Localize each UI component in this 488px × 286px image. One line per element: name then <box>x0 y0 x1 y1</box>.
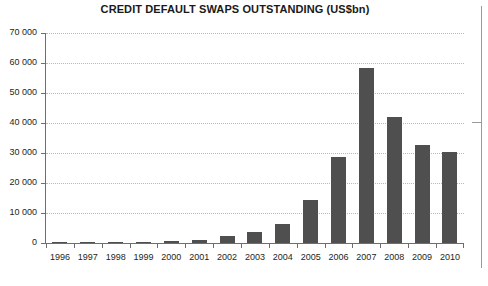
bar-slot-2002 <box>213 33 241 243</box>
y-tick-mark-40000 <box>41 123 45 124</box>
x-tick-2010 <box>436 243 464 248</box>
bar-slot-1999 <box>130 33 158 243</box>
bar-slot-2004 <box>269 33 297 243</box>
x-axis-label-2007: 2007 <box>352 252 380 263</box>
bar-2010[interactable] <box>442 152 457 243</box>
y-axis-tick-label: 30 000 <box>0 148 37 157</box>
x-tick-1998 <box>102 243 130 248</box>
y-axis-tick-label: 0 <box>0 238 37 247</box>
y-tick-mark-0 <box>41 243 45 244</box>
bar-slot-1996 <box>46 33 74 243</box>
bar-slot-2008 <box>380 33 408 243</box>
x-axis-label-2003: 2003 <box>241 252 269 263</box>
bar-slot-2000 <box>157 33 185 243</box>
x-axis-label-2006: 2006 <box>325 252 353 263</box>
bar-2009[interactable] <box>415 145 430 243</box>
x-axis-labels: 1996199719981999200020012002200320042005… <box>46 252 464 263</box>
bar-slot-2005 <box>297 33 325 243</box>
x-axis-label-1998: 1998 <box>102 252 130 263</box>
x-axis-label-1997: 1997 <box>74 252 102 263</box>
x-tick-2004 <box>269 243 297 248</box>
x-axis-label-2000: 2000 <box>157 252 185 263</box>
bar-slot-1998 <box>102 33 130 243</box>
x-tick-2009 <box>408 243 436 248</box>
x-tick-2000 <box>157 243 185 248</box>
chart-figure: CREDIT DEFAULT SWAPS OUTSTANDING (US$bn)… <box>0 0 488 286</box>
x-tick-2006 <box>325 243 353 248</box>
y-axis-tick-label: 10 000 <box>0 208 37 217</box>
x-axis-label-2001: 2001 <box>185 252 213 263</box>
x-axis-label-2010: 2010 <box>436 252 464 263</box>
x-tick-2003 <box>241 243 269 248</box>
bar-2008[interactable] <box>387 117 402 243</box>
bar-2005[interactable] <box>303 200 318 243</box>
y-tick-mark-60000 <box>41 63 45 64</box>
y-tick-mark-20000 <box>41 183 45 184</box>
bar-2007[interactable] <box>359 68 374 243</box>
x-tick-1999 <box>130 243 158 248</box>
y-tick-mark-70000 <box>41 33 45 34</box>
bar-slot-1997 <box>74 33 102 243</box>
right-border-tick <box>472 122 482 123</box>
x-tick-2001 <box>185 243 213 248</box>
bar-2006[interactable] <box>331 157 346 243</box>
x-axis-label-1999: 1999 <box>130 252 158 263</box>
x-axis-label-1996: 1996 <box>46 252 74 263</box>
bar-slot-2010 <box>436 33 464 243</box>
x-axis-label-2005: 2005 <box>297 252 325 263</box>
y-axis-tick-label: 20 000 <box>0 178 37 187</box>
bar-2004[interactable] <box>275 224 290 243</box>
right-border-rule <box>481 6 482 268</box>
bar-slot-2001 <box>185 33 213 243</box>
x-tick-2007 <box>352 243 380 248</box>
y-axis-tick-label: 40 000 <box>0 118 37 127</box>
bar-slot-2007 <box>352 33 380 243</box>
y-axis-tick-label: 70 000 <box>0 28 37 37</box>
bar-slot-2006 <box>325 33 353 243</box>
x-axis-label-2009: 2009 <box>408 252 436 263</box>
x-tick-1996 <box>46 243 74 248</box>
x-tick-2008 <box>380 243 408 248</box>
y-tick-mark-10000 <box>41 213 45 214</box>
x-axis-label-2004: 2004 <box>269 252 297 263</box>
x-tick-2005 <box>297 243 325 248</box>
bar-2003[interactable] <box>247 232 262 243</box>
x-tick-1997 <box>74 243 102 248</box>
y-tick-mark-30000 <box>41 153 45 154</box>
bar-slot-2009 <box>408 33 436 243</box>
y-axis-tick-label: 60 000 <box>0 58 37 67</box>
x-axis-label-2002: 2002 <box>213 252 241 263</box>
x-axis-ticks <box>46 243 464 248</box>
x-axis-label-2008: 2008 <box>380 252 408 263</box>
bar-series <box>46 33 464 243</box>
x-tick-2002 <box>213 243 241 248</box>
y-axis-tick-label: 50 000 <box>0 88 37 97</box>
chart-title: CREDIT DEFAULT SWAPS OUTSTANDING (US$bn) <box>0 2 470 16</box>
y-tick-mark-50000 <box>41 93 45 94</box>
bar-slot-2003 <box>241 33 269 243</box>
